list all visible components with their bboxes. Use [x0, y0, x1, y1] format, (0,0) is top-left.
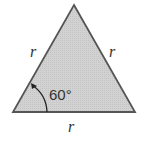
angle-label: 60° [49, 86, 72, 103]
base-label: r [68, 118, 75, 135]
right-side-label: r [109, 43, 116, 60]
left-side-label: r [30, 43, 37, 60]
triangle-diagram: 60° r r r [0, 0, 146, 141]
